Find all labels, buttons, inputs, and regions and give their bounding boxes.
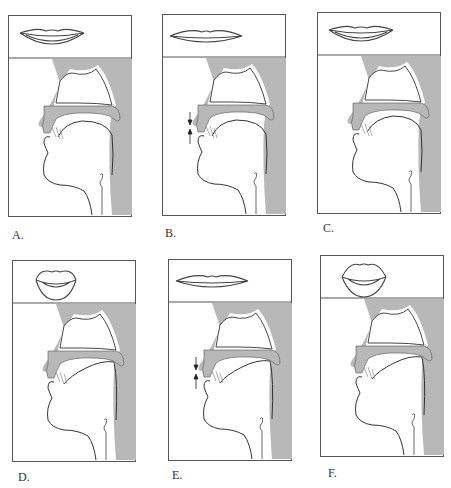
vocal-tract-panel-e: E.: [168, 259, 292, 461]
panel-label: E.: [172, 468, 182, 483]
vocal-tract-diagram: [12, 260, 136, 462]
vocal-tract-diagram: [8, 15, 132, 217]
panel-label: D.: [18, 470, 30, 485]
vocal-tract-panel-c: C.: [317, 12, 441, 214]
vocal-tract-diagram: [162, 14, 286, 216]
vocal-tract-diagram: [320, 255, 444, 457]
vocal-tract-panel-f: F.: [320, 255, 444, 457]
panel-label: A.: [12, 228, 24, 243]
vocal-tract-panel-d: D.: [12, 260, 136, 462]
vocal-tract-panel-b: B.: [162, 14, 286, 216]
panel-label: B.: [165, 226, 176, 241]
panel-label: C.: [323, 221, 334, 236]
vocal-tract-panel-a: A.: [8, 15, 132, 217]
vocal-tract-diagram: [168, 259, 292, 461]
vocal-tract-diagram: [317, 12, 441, 214]
panel-label: F.: [328, 466, 337, 481]
